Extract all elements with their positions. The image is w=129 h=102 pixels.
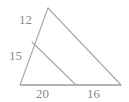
label-base-left-segment: 20 [36,87,49,100]
label-upper-left-segment: 12 [19,13,32,26]
geometry-figure: 12 15 20 16 [0,0,129,102]
interior-cevian-line [32,42,76,85]
triangle-right-side [48,8,121,85]
label-lower-left-segment: 15 [9,49,22,62]
label-base-right-segment: 16 [87,87,100,100]
